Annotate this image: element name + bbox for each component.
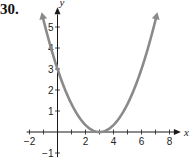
x-tick-label: −2 bbox=[24, 136, 36, 147]
y-tick-label: 3 bbox=[48, 64, 54, 75]
y-tick-label: 5 bbox=[48, 22, 54, 33]
y-axis-arrow-icon bbox=[55, 7, 61, 14]
x-axis-label: x bbox=[183, 126, 189, 138]
parabola-chart: −22468−112345xy bbox=[0, 0, 195, 158]
x-tick-label: 6 bbox=[139, 136, 145, 147]
x-tick-label: 2 bbox=[83, 136, 89, 147]
curve-left-arrow-icon bbox=[39, 12, 47, 20]
y-tick-label: 1 bbox=[48, 106, 54, 117]
x-tick-label: 8 bbox=[167, 136, 173, 147]
y-tick-label: 2 bbox=[48, 85, 54, 96]
x-tick-label: 4 bbox=[111, 136, 117, 147]
curve-right-arrow-icon bbox=[152, 12, 160, 20]
y-axis-label: y bbox=[59, 0, 65, 8]
parabola-curve bbox=[43, 17, 156, 132]
x-axis-arrow-icon bbox=[174, 129, 181, 135]
y-tick-label: −1 bbox=[42, 148, 54, 159]
